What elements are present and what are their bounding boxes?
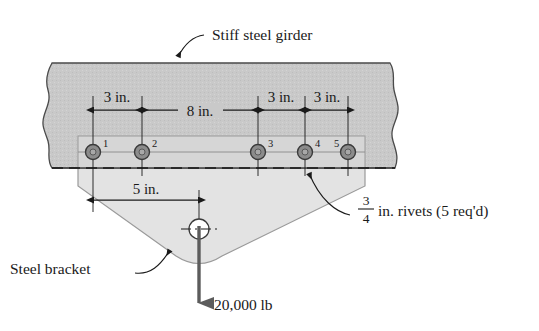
dimension-label-3in-a: 3 in. <box>104 89 131 105</box>
girder-label: Stiff steel girder <box>212 26 313 43</box>
rivet-fraction-numerator: 3 <box>363 193 370 208</box>
dimension-label-3in-b: 3 in. <box>268 89 295 105</box>
rivet-5-number: 5 <box>334 138 339 149</box>
rivet-4-number: 4 <box>315 138 321 149</box>
bracket-leader-line <box>135 250 170 273</box>
rivet-connection-diagram: 3 in. 8 in. 3 in. 3 in. 5 in. 8 in. 1 2 … <box>0 0 539 331</box>
rivet-size-note: 3 4 in. rivets (5 req'd) <box>358 193 488 226</box>
bracket-plate-overlap <box>78 136 365 168</box>
rivet-1-number: 1 <box>103 138 108 149</box>
girder-leader-line <box>178 35 204 57</box>
rivet-note-text: in. rivets (5 req'd) <box>378 202 488 220</box>
rivet-fraction-denominator: 4 <box>363 211 370 226</box>
dimension-label-5in: 5 in. <box>133 181 160 197</box>
dimension-label-3in-c: 3 in. <box>314 89 341 105</box>
bracket-label: Steel bracket <box>10 260 91 277</box>
rivet-3-number: 3 <box>268 138 273 149</box>
load-label: 20,000 lb <box>214 296 273 313</box>
dimension-label-8in-front: 8 in. <box>187 103 214 119</box>
rivet-2-number: 2 <box>152 138 157 149</box>
